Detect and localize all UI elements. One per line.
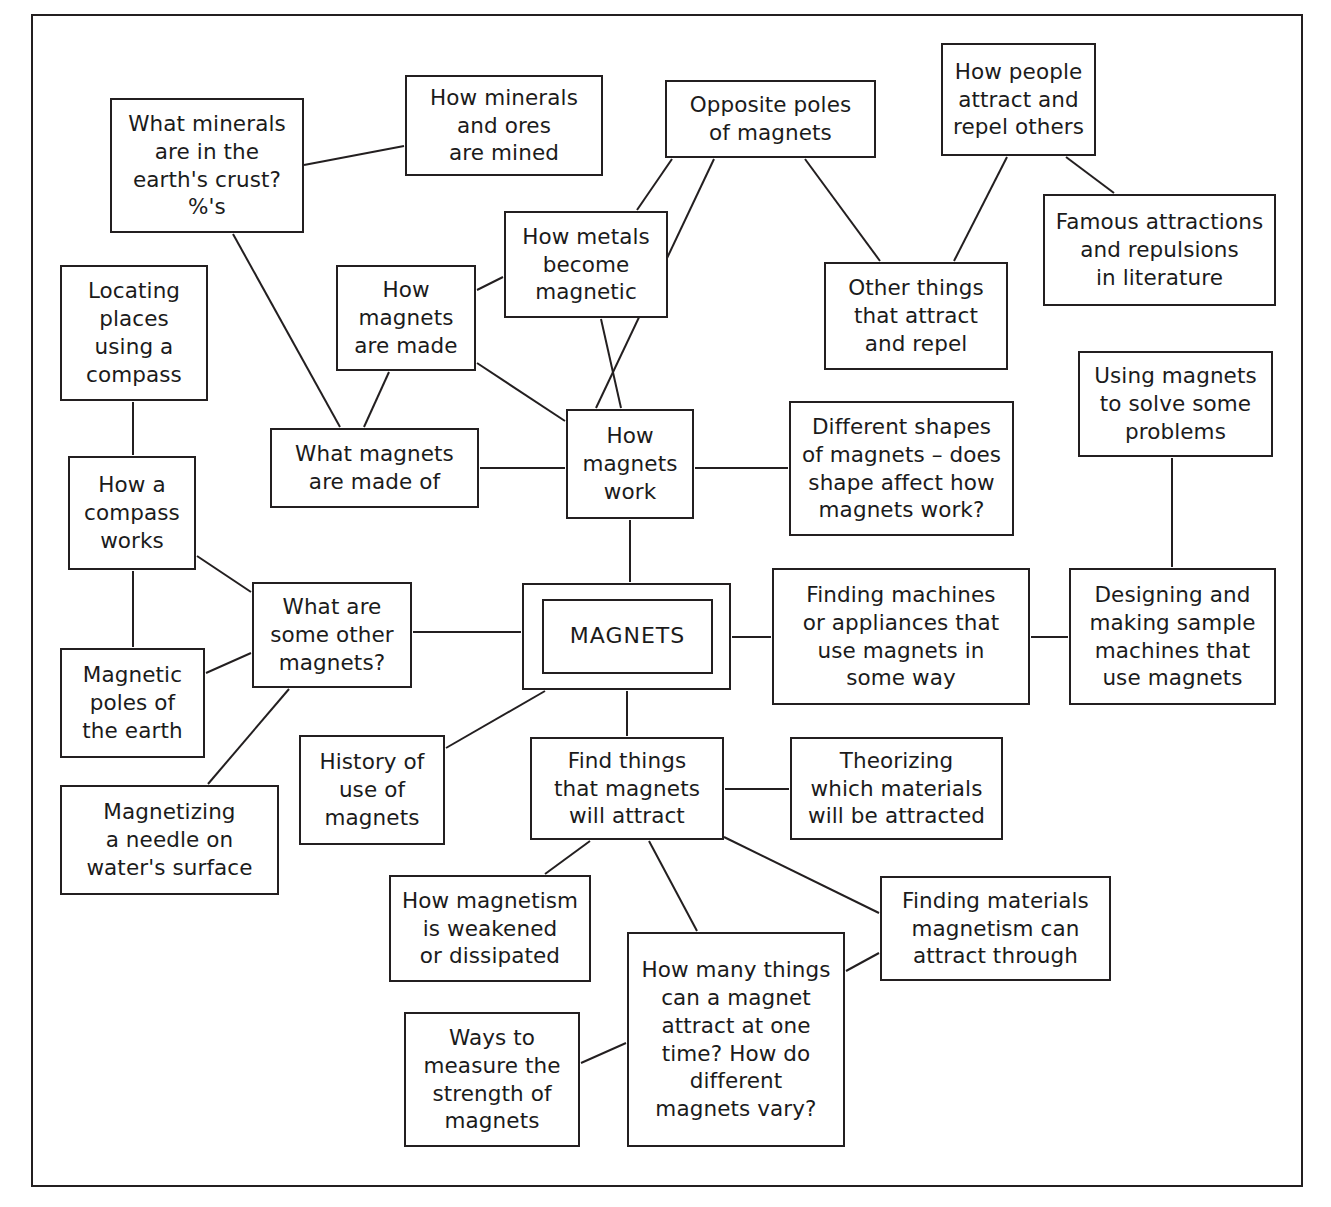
node-what-minerals: What minerals are in the earth's crust? … (110, 98, 304, 233)
node-how-magnetism-weak: How magnetism is weakened or dissipated (389, 875, 591, 982)
node-how-people-attract: How people attract and repel others (941, 43, 1096, 156)
node-locating-places: Locating places using a compass (60, 265, 208, 401)
node-how-many-things: How many things can a magnet attract at … (627, 932, 845, 1147)
node-how-magnets-work-label: How magnets work (583, 422, 678, 506)
node-magnetic-poles-earth-label: Magnetic poles of the earth (82, 661, 182, 745)
node-magnets-inner: MAGNETS (542, 599, 713, 674)
node-how-minerals-mined-label: How minerals and ores are mined (430, 84, 578, 168)
node-theorizing-materials: Theorizing which materials will be attra… (790, 737, 1003, 840)
node-what-other-magnets: What are some other magnets? (252, 582, 412, 688)
node-finding-materials-label: Finding materials magnetism can attract … (902, 887, 1089, 971)
node-locating-places-label: Locating places using a compass (86, 277, 182, 389)
node-opposite-poles: Opposite poles of magnets (665, 80, 876, 158)
node-how-minerals-mined: How minerals and ores are mined (405, 75, 603, 176)
node-how-people-attract-label: How people attract and repel others (953, 58, 1084, 142)
node-history-of-use: History of use of magnets (299, 735, 445, 845)
node-how-metals-magnetic-label: How metals become magnetic (522, 223, 650, 307)
node-how-metals-magnetic: How metals become magnetic (504, 211, 668, 318)
node-using-magnets-solve-label: Using magnets to solve some problems (1094, 362, 1257, 446)
node-using-magnets-solve: Using magnets to solve some problems (1078, 351, 1273, 457)
node-finding-materials: Finding materials magnetism can attract … (880, 876, 1111, 981)
node-find-things-attract: Find things that magnets will attract (530, 737, 724, 840)
node-how-many-things-label: How many things can a magnet attract at … (641, 956, 830, 1124)
node-theorizing-materials-label: Theorizing which materials will be attra… (808, 747, 985, 831)
node-finding-machines: Finding machines or appliances that use … (772, 568, 1030, 705)
node-other-things-attract: Other things that attract and repel (824, 262, 1008, 370)
node-what-magnets-made-of: What magnets are made of (270, 428, 479, 508)
node-ways-to-measure: Ways to measure the strength of magnets (404, 1012, 580, 1147)
node-magnetizing-needle-label: Magnetizing a needle on water's surface (86, 798, 252, 882)
node-history-of-use-label: History of use of magnets (319, 748, 424, 832)
node-what-magnets-made-of-label: What magnets are made of (295, 440, 454, 496)
concept-map-canvas: What minerals are in the earth's crust? … (0, 0, 1331, 1207)
node-find-things-attract-label: Find things that magnets will attract (554, 747, 700, 831)
node-magnets: MAGNETS (522, 583, 731, 690)
node-designing-making: Designing and making sample machines tha… (1069, 568, 1276, 705)
node-magnets-label: MAGNETS (570, 622, 685, 651)
node-how-magnets-work: How magnets work (566, 409, 694, 519)
node-magnetizing-needle: Magnetizing a needle on water's surface (60, 785, 279, 895)
node-famous-attractions: Famous attractions and repulsions in lit… (1043, 194, 1276, 306)
node-different-shapes: Different shapes of magnets – does shape… (789, 401, 1014, 536)
node-how-compass-works-label: How a compass works (84, 471, 180, 555)
node-what-minerals-label: What minerals are in the earth's crust? … (128, 110, 286, 222)
node-different-shapes-label: Different shapes of magnets – does shape… (802, 413, 1001, 525)
node-how-magnets-made: How magnets are made (336, 265, 476, 371)
node-how-magnets-made-label: How magnets are made (354, 276, 457, 360)
node-how-compass-works: How a compass works (68, 456, 196, 570)
node-famous-attractions-label: Famous attractions and repulsions in lit… (1056, 208, 1263, 292)
node-designing-making-label: Designing and making sample machines tha… (1089, 581, 1255, 693)
node-opposite-poles-label: Opposite poles of magnets (690, 91, 852, 147)
node-magnetic-poles-earth: Magnetic poles of the earth (60, 648, 205, 758)
node-how-magnetism-weak-label: How magnetism is weakened or dissipated (402, 887, 578, 971)
node-finding-machines-label: Finding machines or appliances that use … (803, 581, 1000, 693)
node-other-things-attract-label: Other things that attract and repel (848, 274, 984, 358)
node-what-other-magnets-label: What are some other magnets? (270, 593, 394, 677)
node-ways-to-measure-label: Ways to measure the strength of magnets (424, 1024, 561, 1136)
